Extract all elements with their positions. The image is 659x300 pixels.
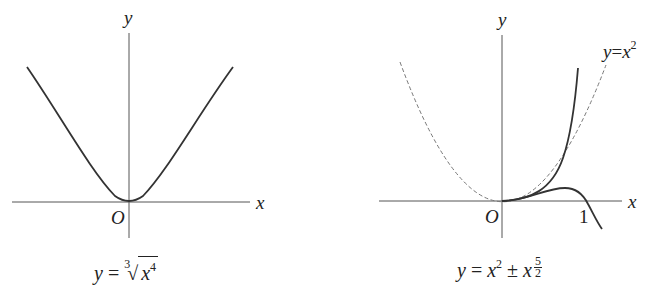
right-caption: y = x2 ± x52 [457,256,542,282]
right-y-axis-label: y [498,10,506,29]
right-x-axis-label: x [628,192,636,211]
caption-lhs: y [94,262,103,284]
caption-equals: = [108,262,119,284]
curve-x2-plus-x52 [502,68,578,201]
reference-curve-label: y=x2 [603,38,637,63]
left-caption: y = 3√x4 [94,256,158,285]
dashed-parabola-x2 [400,62,606,202]
left-y-axis-label: y [124,8,132,27]
tick-label-1: 1 [579,207,589,226]
root-index: 3 [124,257,130,271]
left-origin-label: O [111,208,125,227]
figure-canvas [0,0,659,300]
right-origin-label: O [485,207,499,226]
left-x-axis-label: x [256,193,264,212]
left-graph [12,33,250,238]
left-curve-cuberoot-x4 [27,67,233,201]
exponent-fraction: 52 [534,256,542,279]
radicand: x4 [138,256,158,283]
